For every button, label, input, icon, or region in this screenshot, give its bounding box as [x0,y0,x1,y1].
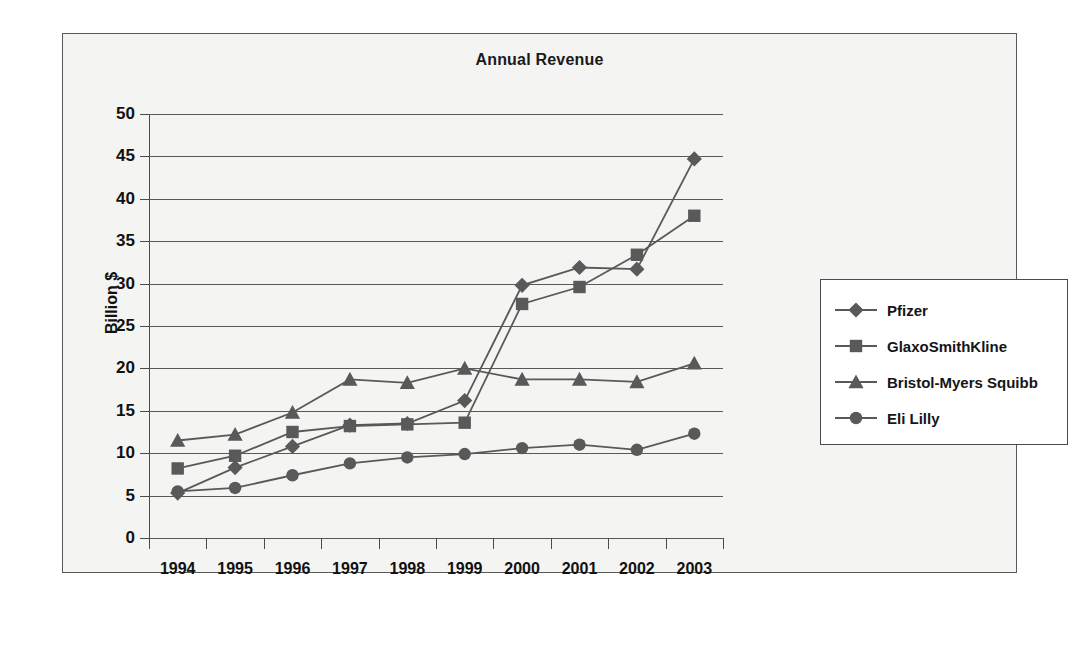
y-axis-tick-label: 35 [116,231,135,251]
chart-title: Annual Revenue [63,51,1016,69]
y-axis-tick [140,199,149,200]
y-axis-tick-label: 15 [116,401,135,421]
data-point-marker [285,405,300,419]
y-axis-tick-label: 20 [116,358,135,378]
data-point-marker [228,460,243,475]
data-point-marker [286,469,298,481]
data-point-marker [688,427,700,439]
y-axis-tick [140,114,149,115]
data-point-marker [687,151,702,166]
y-axis-tick-label: 0 [126,528,135,548]
series-glaxosmithkline [172,210,701,475]
series-line [178,159,695,493]
data-point-marker [172,462,184,474]
y-axis-tick [140,453,149,454]
data-point-marker [344,457,356,469]
y-axis-tick [140,284,149,285]
data-point-marker [631,249,643,261]
data-point-marker [342,372,357,386]
x-axis-tick-label: 2000 [504,560,540,578]
data-point-marker [516,298,528,310]
data-point-marker [457,393,472,408]
x-axis-tick [666,538,667,549]
series-layer [149,114,723,538]
legend-item-eli-lilly[interactable]: Eli Lilly [821,400,1067,436]
x-axis-tick [264,538,265,549]
y-axis-tick [140,326,149,327]
x-axis-tick [149,538,150,549]
series-line [178,216,695,469]
legend-label: Bristol-Myers Squibb [887,374,1038,391]
x-axis-tick-label: 1999 [447,560,483,578]
data-point-marker [229,482,241,494]
data-point-marker [631,444,643,456]
data-point-marker [629,262,644,277]
x-axis-tick [723,538,724,549]
chart-legend: PfizerGlaxoSmithKlineBristol-Myers Squib… [820,279,1068,445]
data-point-marker [573,281,585,293]
x-axis-tick-label: 1997 [332,560,368,578]
data-point-marker [172,485,184,497]
x-axis-tick [551,538,552,549]
triangle-marker-icon [835,372,877,392]
y-axis-tick-label: 40 [116,189,135,209]
data-point-marker [688,210,700,222]
y-axis-tick-label: 25 [116,316,135,336]
data-point-marker [401,451,413,463]
chart-frame: Annual Revenue Billion $ 051015202530354… [62,33,1017,573]
x-axis-tick-label: 1994 [160,560,196,578]
y-axis-tick [140,368,149,369]
y-axis-tick-label: 5 [126,486,135,506]
diamond-marker-icon [835,300,877,320]
x-axis-tick-label: 1996 [275,560,311,578]
y-axis-tick-label: 45 [116,146,135,166]
data-point-marker [344,420,356,432]
legend-item-bristol-myers-squibb[interactable]: Bristol-Myers Squibb [821,364,1067,400]
data-point-marker [515,278,530,293]
plot-area: 05101520253035404550 1994199519961997199… [149,114,723,538]
y-axis-tick-label: 50 [116,104,135,124]
series-bristol-myers-squibb [170,356,702,447]
x-axis-tick [206,538,207,549]
y-axis-tick [140,156,149,157]
data-point-marker [285,439,300,454]
series-line [178,363,695,440]
chart-page: Annual Revenue Billion $ 051015202530354… [0,0,1078,646]
data-point-marker [459,416,471,428]
data-point-marker [228,427,243,441]
x-axis-tick-label: 1998 [390,560,426,578]
data-point-marker [573,439,585,451]
x-axis-tick [379,538,380,549]
legend-item-glaxosmithkline[interactable]: GlaxoSmithKline [821,328,1067,364]
legend-item-pfizer[interactable]: Pfizer [821,292,1067,328]
data-point-marker [687,356,702,370]
x-axis-tick [321,538,322,549]
x-axis-tick-label: 2002 [619,560,655,578]
x-axis-tick-label: 2001 [562,560,598,578]
data-point-marker [457,361,472,375]
y-axis-tick [140,241,149,242]
y-axis-tick [140,411,149,412]
data-point-marker [516,442,528,454]
x-axis-tick [436,538,437,549]
x-axis-tick [493,538,494,549]
data-point-marker [401,418,413,430]
legend-label: Pfizer [887,302,928,319]
x-axis-tick-label: 2003 [677,560,713,578]
legend-label: GlaxoSmithKline [887,338,1007,355]
x-axis-tick [608,538,609,549]
legend-label: Eli Lilly [887,410,940,427]
data-point-marker [286,426,298,438]
series-line [178,434,695,492]
data-point-marker [459,448,471,460]
y-axis-tick-label: 30 [116,274,135,294]
y-axis-tick [140,496,149,497]
square-marker-icon [835,336,877,356]
y-axis-tick-label: 10 [116,443,135,463]
y-axis-tick [140,538,149,539]
circle-marker-icon [835,408,877,428]
data-point-marker [229,450,241,462]
x-axis-tick-label: 1995 [217,560,253,578]
data-point-marker [572,260,587,275]
